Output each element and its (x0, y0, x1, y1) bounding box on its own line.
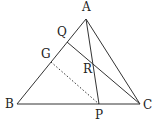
label-r: R (83, 62, 93, 76)
triangle-diagram: A B C P Q G R (0, 0, 155, 125)
segment-qc (67, 42, 140, 104)
label-p: P (95, 108, 103, 122)
label-a: A (81, 0, 91, 14)
label-g: G (41, 47, 51, 61)
segment-ab (17, 19, 86, 104)
label-b: B (5, 97, 14, 111)
segment-ca (86, 19, 140, 104)
label-c: C (143, 98, 152, 112)
segments (17, 19, 140, 104)
label-q: Q (57, 25, 67, 39)
diagram-canvas: A B C P Q G R (0, 0, 155, 125)
